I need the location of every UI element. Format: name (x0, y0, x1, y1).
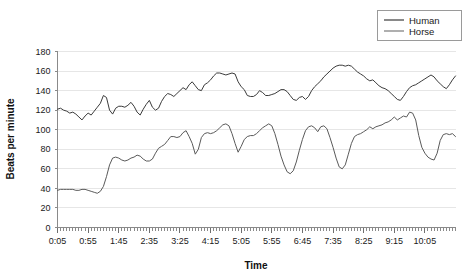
y-tick-label: 40 (40, 184, 50, 194)
y-tick-label: 180 (35, 47, 50, 57)
x-tick-label: 0:05 (49, 236, 67, 246)
series-line-human (58, 65, 456, 120)
x-axis-tick-labels: 0:050:551:452:353:254:155:055:556:457:35… (49, 236, 436, 246)
x-tick-label: 5:55 (263, 236, 281, 246)
chart-container: 020406080100120140160180 0:050:551:452:3… (0, 0, 469, 279)
y-tick-label: 120 (35, 105, 50, 115)
legend-label-horse: Horse (409, 26, 434, 37)
legend[interactable]: Human Horse (378, 11, 462, 41)
x-tick-label: 10:05 (414, 236, 437, 246)
x-tick-label: 5:05 (232, 236, 250, 246)
x-axis-tick-marks (58, 228, 456, 233)
gridlines (58, 52, 456, 228)
x-axis-title-group: Time (244, 260, 268, 271)
y-axis-title-group: Beats per minute (5, 98, 16, 180)
y-axis-title: Beats per minute (5, 98, 16, 180)
x-tick-label: 2:35 (141, 236, 159, 246)
y-tick-label: 160 (35, 66, 50, 76)
x-tick-label: 4:15 (202, 236, 220, 246)
legend-label-human: Human (409, 15, 440, 26)
y-tick-label: 80 (40, 144, 50, 154)
x-tick-label: 0:55 (79, 236, 97, 246)
x-axis-title: Time (244, 260, 268, 271)
x-tick-label: 1:45 (110, 236, 128, 246)
series-line-horse (58, 112, 456, 193)
y-tick-label: 100 (35, 125, 50, 135)
x-tick-label: 7:35 (324, 236, 342, 246)
x-tick-label: 3:25 (171, 236, 189, 246)
x-tick-label: 9:15 (386, 236, 404, 246)
y-tick-label: 140 (35, 86, 50, 96)
x-tick-label: 6:45 (294, 236, 312, 246)
y-tick-label: 20 (40, 203, 50, 213)
y-tick-label: 60 (40, 164, 50, 174)
y-axis-tick-labels: 020406080100120140160180 (35, 47, 57, 233)
y-tick-label: 0 (45, 223, 50, 233)
line-chart: 020406080100120140160180 0:050:551:452:3… (0, 0, 469, 279)
x-tick-label: 8:25 (355, 236, 373, 246)
